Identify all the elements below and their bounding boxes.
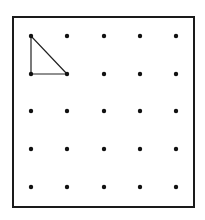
grid-dot: [138, 72, 142, 76]
grid-dot: [65, 109, 69, 113]
geoboard-diagram: [0, 0, 205, 220]
grid-dot: [102, 72, 106, 76]
grid-dot: [65, 34, 69, 38]
grid-dot: [102, 109, 106, 113]
grid-dot: [174, 72, 178, 76]
grid-dot: [138, 34, 142, 38]
grid-dot: [29, 185, 33, 189]
grid-dot: [65, 185, 69, 189]
grid-dot: [65, 147, 69, 151]
grid-dot: [174, 34, 178, 38]
grid-dot: [138, 147, 142, 151]
grid-dot: [29, 147, 33, 151]
right-triangle: [31, 36, 67, 74]
grid-dot: [29, 34, 33, 38]
grid-dot: [29, 109, 33, 113]
grid-dot: [102, 185, 106, 189]
grid-dot: [102, 34, 106, 38]
grid-dot: [174, 109, 178, 113]
shapes: [31, 36, 67, 74]
grid-dot: [138, 185, 142, 189]
grid-dot: [65, 72, 69, 76]
grid-dot: [29, 72, 33, 76]
grid-dot: [174, 185, 178, 189]
grid-dot: [102, 147, 106, 151]
grid-dot: [138, 109, 142, 113]
grid-dot: [174, 147, 178, 151]
